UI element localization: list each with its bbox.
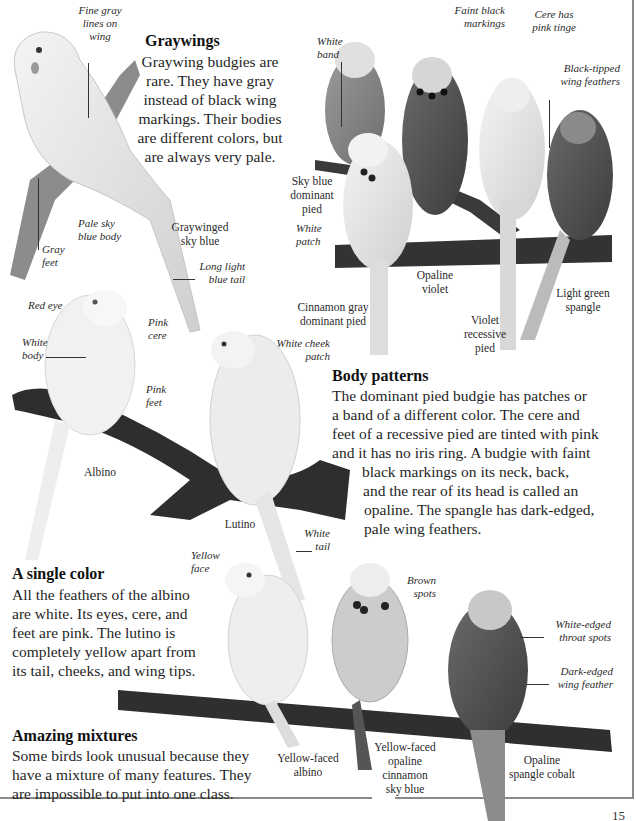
caption-line: Sky blue xyxy=(282,174,342,188)
callout-line: patch xyxy=(296,235,336,248)
text-line: a band of a different color. The cere an… xyxy=(332,405,632,424)
body-patterns-text: The dominant pied budgie has patches or … xyxy=(332,386,632,538)
callout-line: White xyxy=(317,35,347,48)
callout-pink-cere: Pink cere xyxy=(148,316,178,342)
caption-line: Cinnamon gray xyxy=(288,300,378,314)
callout-line: White xyxy=(296,222,336,235)
text-line: opaline. The spangle has dark-edged, xyxy=(332,500,632,519)
amazing-mixtures-heading: Amazing mixtures xyxy=(12,727,137,745)
leader-line xyxy=(46,357,86,358)
caption-yellow-faced-opaline-cinnamon-sky-blue: Yellow-faced opaline cinnamon sky blue xyxy=(370,740,440,796)
amazing-mixtures-text: Some birds look unusual because they hav… xyxy=(12,746,262,803)
callout-line: feet xyxy=(146,396,176,409)
text-line: instead of black wing xyxy=(130,90,290,109)
text-line: are impossible to put into one class. xyxy=(12,784,262,803)
callout-line: pink tinge xyxy=(525,21,583,34)
caption-line: dominant pied xyxy=(288,314,378,328)
callout-line: markings xyxy=(445,17,505,30)
page-frame-bottom-right xyxy=(395,797,634,799)
callout-white-cheek-patch: White cheek patch xyxy=(268,337,330,363)
text-line: feet are pink. The lutino is xyxy=(12,623,217,642)
caption-opaline-spangle-cobalt: Opaline spangle cobalt xyxy=(497,753,587,781)
caption-lutino: Lutino xyxy=(215,517,265,531)
text-line: completely yellow apart from xyxy=(12,642,217,661)
callout-line: White xyxy=(300,527,330,540)
callout-line: face xyxy=(191,562,227,575)
caption-line: recessive xyxy=(455,327,515,341)
leader-line xyxy=(88,63,89,118)
callout-line: Black-tipped xyxy=(550,62,620,75)
callout-fine-gray-lines: Fine gray lines on wing xyxy=(75,4,125,43)
text-line: have a mixture of many features. They xyxy=(12,765,262,784)
callout-line: band xyxy=(317,48,347,61)
caption-light-green-spangle: Light green spangle xyxy=(548,286,618,314)
book-page: 15 Graywings Graywing budgies are rare. … xyxy=(0,0,636,821)
callout-line: Long light xyxy=(185,260,245,273)
caption-line: Opaline xyxy=(497,753,587,767)
text-line: and it has no iris ring. A budgie with f… xyxy=(332,443,632,462)
caption-cinnamon-gray-dominant-pied: Cinnamon gray dominant pied xyxy=(288,300,378,328)
callout-pink-feet: Pink feet xyxy=(146,383,176,409)
body-patterns-heading: Body patterns xyxy=(332,367,428,385)
page-number: 15 xyxy=(612,808,625,821)
caption-yellow-faced-albino: Yellow-faced albino xyxy=(268,751,348,779)
single-color-heading: A single color xyxy=(12,565,104,583)
callout-line: White-edged xyxy=(541,618,611,631)
callout-yellow-face: Yellow face xyxy=(191,549,227,575)
callout-line: Dark-edged xyxy=(545,665,613,678)
single-color-text: All the feathers of the albino are white… xyxy=(12,585,217,680)
caption-line: Graywinged xyxy=(160,220,240,234)
caption-line: spangle cobalt xyxy=(497,767,587,781)
caption-opaline-violet: Opaline violet xyxy=(405,268,465,296)
callout-brown-spots: Brown spots xyxy=(400,574,436,600)
callout-pale-sky-blue-body: Pale sky blue body xyxy=(78,217,138,243)
caption-line: Light green xyxy=(548,286,618,300)
callout-line: Pink xyxy=(146,383,176,396)
text-line: are always very pale. xyxy=(130,147,290,166)
callout-cere-pink-tinge: Cere has pink tinge xyxy=(525,8,583,34)
callout-line: Red eye xyxy=(28,299,78,312)
callout-long-light-blue-tail: Long light blue tail xyxy=(185,260,245,286)
callout-line: wing feathers xyxy=(550,75,620,88)
callout-line: Yellow xyxy=(191,549,227,562)
caption-line: sky blue xyxy=(370,782,440,796)
leader-line xyxy=(173,279,195,280)
callout-line: Cere has xyxy=(525,8,583,21)
text-line: black markings on its neck, back, xyxy=(332,462,632,481)
callout-dark-edged-wing-feather: Dark-edged wing feather xyxy=(545,665,613,691)
callout-line: cere xyxy=(148,329,178,342)
callout-line: Pink xyxy=(148,316,178,329)
callout-white-tail: White tail xyxy=(300,527,330,553)
callout-line: Brown xyxy=(400,574,436,587)
leader-line xyxy=(38,178,39,250)
callout-faint-black-markings: Faint black markings xyxy=(445,4,505,30)
caption-line: pied xyxy=(282,202,342,216)
callout-line: feet xyxy=(42,256,82,269)
callout-line: body xyxy=(22,349,62,362)
text-line: Some birds look unusual because they xyxy=(12,746,262,765)
caption-graywinged-sky-blue: Graywinged sky blue xyxy=(160,220,240,248)
caption-line: Opaline xyxy=(405,268,465,282)
caption-line: pied xyxy=(455,341,515,355)
caption-line: dominant xyxy=(282,188,342,202)
caption-line: albino xyxy=(268,765,348,779)
graywings-heading: Graywings xyxy=(145,32,220,50)
graywings-text: Graywing budgies are rare. They have gra… xyxy=(130,52,290,166)
text-line: markings. Their bodies xyxy=(130,109,290,128)
caption-albino: Albino xyxy=(75,465,125,479)
callout-line: Faint black xyxy=(445,4,505,17)
callout-line: wing feather xyxy=(545,678,613,691)
text-line: rare. They have gray xyxy=(130,71,290,90)
caption-line: violet xyxy=(405,282,465,296)
caption-line: Violet xyxy=(455,313,515,327)
caption-line: spangle xyxy=(548,300,618,314)
caption-line: opaline xyxy=(370,754,440,768)
callout-line: Gray xyxy=(42,243,82,256)
text-line: The dominant pied budgie has patches or xyxy=(332,386,632,405)
callout-gray-feet: Gray feet xyxy=(42,243,82,269)
caption-violet-recessive-pied: Violet recessive pied xyxy=(455,313,515,355)
caption-line: cinnamon xyxy=(370,768,440,782)
page-frame-right xyxy=(632,0,634,798)
text-line: its tail, cheeks, and wing tips. xyxy=(12,661,217,680)
callout-line: Fine gray xyxy=(75,4,125,17)
